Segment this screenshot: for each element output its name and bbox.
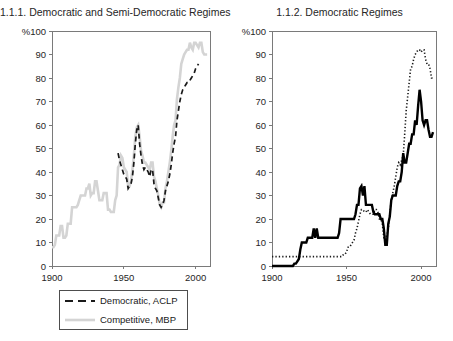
plot-area-right: 0102030405060708090%100190019502000	[226, 0, 453, 285]
y-tick-label: %100	[242, 26, 266, 37]
y-tick-label: 90	[255, 49, 266, 60]
x-tick-label: 1950	[336, 272, 357, 283]
x-tick-label: 1900	[41, 272, 62, 283]
y-tick-label: 20	[255, 214, 266, 225]
series-line	[52, 43, 207, 247]
series-line	[272, 90, 433, 266]
plot-area-left: 0102030405060708090%100190019502000	[0, 0, 226, 285]
y-tick-label: 0	[261, 261, 266, 272]
x-tick-label: 2000	[411, 272, 432, 283]
y-tick-label: 10	[255, 237, 266, 248]
y-tick-label: 10	[35, 237, 46, 248]
y-tick-label: 90	[35, 49, 46, 60]
legend-label-competitive-mbp: Competitive, MBP	[100, 314, 176, 325]
figure-container: 1.1.1. Democratic and Semi-Democratic Re…	[0, 0, 453, 341]
chart-panel-right: 1.1.2. Democratic Regimes 01020304050607…	[226, 0, 453, 341]
y-tick-label: 30	[255, 190, 266, 201]
y-tick-label: 70	[35, 96, 46, 107]
x-tick-label: 2000	[185, 272, 206, 283]
y-tick-label: 40	[35, 167, 46, 178]
legend-left: Democratic, ACLP Competitive, MBP	[59, 290, 188, 330]
legend-key-solid-gray-icon	[64, 314, 96, 326]
y-tick-label: 80	[255, 73, 266, 84]
line-chart-left: 0102030405060708090%100190019502000	[0, 0, 226, 285]
y-tick-label: 50	[35, 143, 46, 154]
y-tick-label: 60	[35, 120, 46, 131]
legend-item-competitive-mbp: Competitive, MBP	[60, 310, 187, 329]
y-tick-label: 70	[255, 96, 266, 107]
y-tick-label: 50	[255, 143, 266, 154]
y-tick-label: 20	[35, 214, 46, 225]
chart-panel-left: 1.1.1. Democratic and Semi-Democratic Re…	[0, 0, 226, 341]
y-tick-label: 0	[41, 261, 46, 272]
y-tick-label: 40	[255, 167, 266, 178]
y-tick-label: %100	[22, 26, 46, 37]
x-tick-label: 1950	[113, 272, 134, 283]
y-tick-label: 80	[35, 73, 46, 84]
legend-label-democratic-aclp: Democratic, ACLP	[100, 295, 178, 306]
line-chart-right: 0102030405060708090%100190019502000	[226, 0, 453, 285]
y-tick-label: 30	[35, 190, 46, 201]
x-tick-label: 1900	[261, 272, 282, 283]
y-tick-label: 60	[255, 120, 266, 131]
legend-item-democratic-aclp: Democratic, ACLP	[60, 291, 187, 310]
legend-key-dashed-icon	[64, 295, 96, 307]
